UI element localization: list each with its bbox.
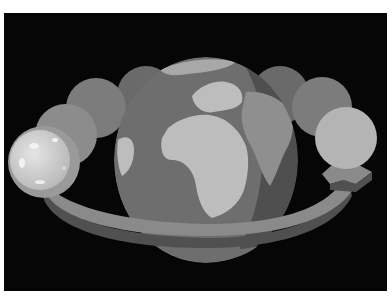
moon-orbit-illustration	[0, 0, 392, 296]
moon-crater	[52, 138, 58, 142]
moon-disc	[315, 107, 377, 169]
moon-crater	[19, 158, 25, 168]
moon-crater	[29, 143, 39, 149]
moon-crater	[62, 166, 66, 170]
moon-crater	[35, 180, 45, 184]
